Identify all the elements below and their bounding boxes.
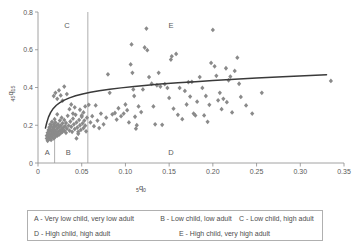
data-point: [83, 104, 87, 109]
scatter-plot: 00.20.40.60.800.050.100.150.200.250.300.…: [0, 0, 352, 200]
data-point: [216, 98, 220, 103]
x-tick-label: 0.25: [250, 168, 264, 175]
data-point: [235, 55, 239, 60]
tick-label-group: 00.20.40.60.800.050.100.150.200.250.300.…: [23, 9, 351, 176]
data-point: [244, 103, 248, 108]
data-point: [260, 90, 264, 95]
data-point: [136, 104, 140, 109]
chart-root: 00.20.40.60.800.050.100.150.200.250.300.…: [0, 0, 352, 250]
data-point: [147, 75, 151, 80]
data-point: [59, 93, 63, 98]
x-axis-title: 5q0: [136, 183, 146, 193]
data-point: [115, 117, 119, 122]
data-point: [250, 111, 254, 116]
x-tick-label: 0.30: [293, 168, 307, 175]
legend-box: A - Very low child, very low adult B - L…: [27, 210, 323, 241]
data-point: [74, 136, 78, 141]
region-label-a: A: [45, 148, 50, 157]
data-point: [171, 106, 175, 111]
data-point: [157, 70, 161, 75]
legend-entry-e: E - High child, very high adult: [179, 230, 322, 237]
data-point: [68, 119, 72, 124]
data-point: [108, 90, 112, 95]
x-tick-label: 0.15: [162, 168, 176, 175]
data-point: [127, 120, 131, 125]
data-point: [151, 104, 155, 109]
data-point: [206, 119, 210, 124]
legend-entry-a: A - Very low child, very low adult: [34, 215, 160, 222]
data-point: [131, 87, 135, 92]
data-point: [57, 88, 61, 93]
data-point: [153, 122, 157, 127]
data-point: [123, 102, 127, 107]
data-point: [185, 102, 189, 107]
data-point: [207, 102, 211, 107]
data-point: [73, 105, 77, 110]
x-tick-label: 0.20: [206, 168, 220, 175]
data-point: [65, 92, 69, 97]
data-point: [69, 102, 73, 107]
x-tick-label: 0.05: [75, 168, 89, 175]
x-tick-label: 0: [36, 168, 40, 175]
y-tick-label: 0.4: [23, 84, 33, 91]
data-point: [55, 96, 59, 101]
data-point: [92, 124, 96, 129]
data-point: [220, 107, 224, 112]
y-tick-label: 0: [29, 160, 33, 167]
data-point: [178, 85, 182, 90]
data-point: [139, 110, 143, 115]
data-point: [218, 90, 222, 95]
data-point: [213, 64, 217, 69]
data-point: [183, 88, 187, 93]
data-point: [237, 81, 241, 86]
data-point: [129, 42, 133, 47]
data-point: [66, 113, 70, 118]
data-point: [71, 116, 75, 121]
data-point: [225, 100, 229, 105]
data-point: [174, 52, 178, 57]
legend-entry-c: C - Low child, high adult: [239, 215, 322, 222]
axis-ticks: [35, 12, 344, 167]
data-point: [167, 95, 171, 100]
data-point: [180, 117, 184, 122]
x-tick-label: 0.35: [337, 168, 351, 175]
region-label-e: E: [168, 21, 173, 30]
legend-row-2: D - High child, high adult E - High chil…: [28, 226, 322, 241]
data-point: [200, 85, 204, 90]
data-point: [62, 84, 66, 89]
y-axis-title: 45q15: [6, 86, 16, 102]
data-point: [228, 74, 232, 79]
data-point: [87, 102, 91, 107]
data-point: [55, 112, 59, 117]
data-point: [95, 118, 99, 123]
data-point: [67, 107, 71, 112]
data-point: [85, 115, 89, 120]
data-point: [130, 70, 134, 75]
region-divider-lines: [55, 12, 88, 163]
legend-row-1: A - Very low child, very low adult B - L…: [28, 211, 322, 226]
data-point: [141, 87, 145, 92]
data-point: [90, 114, 94, 119]
y-tick-label: 0.2: [23, 122, 33, 129]
data-point: [129, 62, 133, 67]
data-point: [94, 103, 98, 108]
data-point: [106, 72, 110, 77]
y-tick-label: 0.8: [23, 9, 33, 16]
data-point: [160, 122, 164, 127]
legend-entry-d: D - High child, high adult: [34, 230, 179, 237]
data-point: [133, 114, 137, 119]
data-point: [99, 111, 103, 116]
data-point: [211, 28, 215, 33]
data-point: [209, 61, 213, 66]
legend-entry-b: B - Low child, low adult: [160, 215, 239, 222]
data-point: [198, 75, 202, 80]
data-point: [202, 113, 206, 118]
data-point: [233, 68, 237, 73]
data-point: [176, 112, 180, 117]
x-tick-label: 0.10: [119, 168, 133, 175]
data-point: [88, 120, 92, 125]
region-label-b: B: [66, 148, 71, 157]
data-point: [204, 94, 208, 99]
data-point: [221, 96, 225, 101]
data-point: [125, 108, 129, 113]
